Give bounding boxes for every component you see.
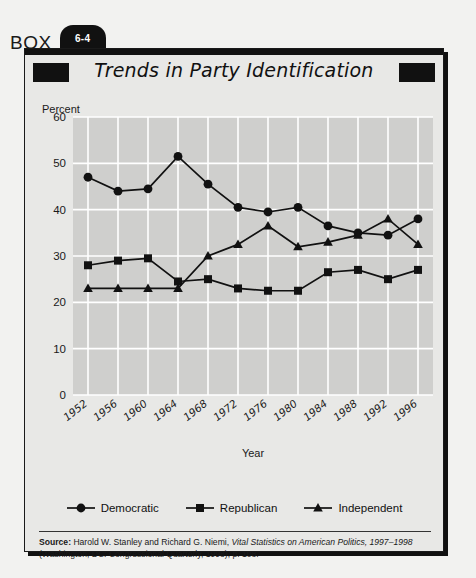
x-tick-label: 1968 xyxy=(181,397,210,423)
x-tick-label: 1988 xyxy=(331,397,360,423)
source-note: Source: Harold W. Stanley and Richard G.… xyxy=(39,536,433,561)
source-title: Vital Statistics on American Politics, 1… xyxy=(231,537,412,547)
data-point-square xyxy=(84,261,92,269)
y-tick-label: 50 xyxy=(53,157,66,169)
chart-legend: DemocraticRepublicanIndependent xyxy=(25,501,443,515)
data-point-circle xyxy=(76,504,85,513)
x-tick-label: 1956 xyxy=(91,397,120,423)
data-point-circle xyxy=(384,231,393,240)
data-point-square xyxy=(144,254,152,262)
data-point-square xyxy=(196,504,204,512)
x-axis-label: Year xyxy=(242,447,265,459)
y-tick-label: 40 xyxy=(53,204,66,216)
x-tick-label: 1972 xyxy=(211,397,240,423)
data-point-circle xyxy=(264,208,273,217)
legend-label: Republican xyxy=(220,502,278,514)
data-point-square xyxy=(264,287,272,295)
panel-top-bar xyxy=(25,49,443,55)
x-tick-label: 1980 xyxy=(271,397,300,423)
legend-marker-triangle-icon xyxy=(303,501,333,515)
legend-item-independent[interactable]: Independent xyxy=(303,501,402,515)
data-point-square xyxy=(234,284,242,292)
legend-item-republican[interactable]: Republican xyxy=(185,501,278,515)
legend-item-democratic[interactable]: Democratic xyxy=(66,501,159,515)
legend-marker-circle-icon xyxy=(66,501,96,515)
data-point-square xyxy=(114,257,122,265)
data-point-circle xyxy=(234,203,243,212)
data-point-square xyxy=(354,266,362,274)
data-point-circle xyxy=(204,180,213,189)
legend-label: Independent xyxy=(338,502,402,514)
y-tick-label: 30 xyxy=(53,250,66,262)
chart-area: Percent 01020304050601952195619601964196… xyxy=(25,95,445,495)
box-panel: Trends in Party Identification Percent 0… xyxy=(24,48,444,552)
data-point-square xyxy=(324,268,332,276)
legend-marker-square-icon xyxy=(185,501,215,515)
data-point-circle xyxy=(114,187,123,196)
x-tick-label: 1992 xyxy=(361,397,390,423)
data-point-square xyxy=(294,287,302,295)
source-prefix: Source: xyxy=(39,537,71,547)
y-tick-label: 20 xyxy=(53,296,66,308)
data-point-square xyxy=(384,275,392,283)
title-row: Trends in Party Identification xyxy=(25,57,443,91)
source-publisher: (Washington, DC: Congressional Quarterly… xyxy=(39,549,259,559)
x-tick-label: 1960 xyxy=(121,397,150,423)
data-point-circle xyxy=(144,184,153,193)
x-tick-label: 1964 xyxy=(151,397,179,423)
x-tick-label: 1984 xyxy=(301,397,329,423)
data-point-circle xyxy=(294,203,303,212)
chart-title: Trends in Party Identification xyxy=(25,59,443,81)
data-point-circle xyxy=(84,173,93,182)
page-root: BOX 6-4 Trends in Party Identification P… xyxy=(0,0,476,578)
data-point-square xyxy=(414,266,422,274)
y-tick-label: 10 xyxy=(53,343,66,355)
source-divider xyxy=(39,531,431,532)
y-tick-label: 60 xyxy=(53,111,66,123)
data-point-circle xyxy=(324,221,333,230)
line-chart-plot: 0102030405060195219561960196419681972197… xyxy=(25,95,445,495)
data-point-circle xyxy=(414,215,423,224)
y-tick-label: 0 xyxy=(60,389,66,401)
legend-label: Democratic xyxy=(101,502,159,514)
source-authors: Harold W. Stanley and Richard G. Niemi, xyxy=(71,537,231,547)
data-point-circle xyxy=(174,152,183,161)
x-tick-label: 1976 xyxy=(241,397,270,423)
x-tick-label: 1996 xyxy=(391,397,420,423)
data-point-square xyxy=(204,275,212,283)
